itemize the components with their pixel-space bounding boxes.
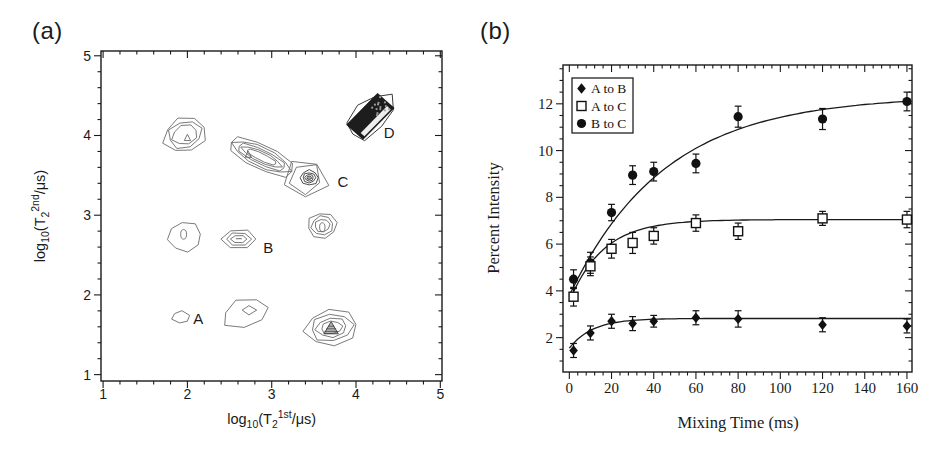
x-tick-label: 20 [604, 380, 619, 396]
speckle-dot [376, 112, 378, 114]
contour-ring [172, 311, 190, 323]
data-point [649, 167, 658, 176]
contour-blob-peak-B [221, 230, 256, 248]
contour-ring [172, 125, 197, 144]
y-tick-label: 4 [83, 127, 91, 143]
y-tick-label: 2 [546, 330, 554, 346]
contour-ring [167, 223, 200, 253]
y-tick-label: 12 [538, 96, 553, 112]
data-point [734, 112, 743, 121]
y-tick-label: 1 [83, 367, 91, 383]
speckle-dot [375, 108, 377, 110]
contour-blob-peak-upper-left [163, 118, 206, 150]
contour-blob-peak-left-mid [167, 223, 200, 253]
figure: (a) (b) 1234512345log10(T21st/μs)log10(T… [0, 0, 952, 458]
contour-inner-ring [184, 134, 190, 140]
data-point [903, 321, 912, 331]
legend-label: A to B [591, 81, 626, 96]
data-point [569, 292, 578, 301]
y-tick-label: 8 [546, 189, 554, 205]
y-tick-label: 5 [83, 48, 91, 64]
contour-blob-peak-C-core [284, 161, 329, 196]
contour-inner-ellipse [320, 223, 325, 232]
x-tick-label: 40 [646, 380, 661, 396]
contour-hatch-core [324, 322, 338, 334]
speckle-dot [379, 108, 381, 110]
speckle-dot [374, 104, 376, 106]
data-point [818, 214, 827, 223]
peak-label-B: B [263, 239, 273, 256]
contour-blob-peak-right-mid [309, 214, 337, 238]
x-tick-label: 4 [352, 386, 360, 402]
y-tick-label: 3 [83, 207, 91, 223]
contour-ring [232, 142, 292, 172]
data-point [734, 227, 743, 236]
speckle-dot [388, 108, 390, 110]
figure-canvas: 1234512345log10(T21st/μs)log10(T22nd/μs)… [0, 0, 952, 458]
x-tick-label: 5 [436, 386, 444, 402]
series-A-to-B [569, 311, 911, 358]
data-point [607, 316, 616, 326]
speckle-dot [379, 96, 381, 98]
x-tick-label: 2 [184, 386, 192, 402]
panel-b: 02040608010012014016024681012Mixing Time… [484, 65, 918, 432]
x-tick-label: 160 [896, 380, 919, 396]
contour-ring [316, 220, 331, 232]
data-point [691, 219, 700, 228]
y-tick-label: 6 [546, 236, 554, 252]
data-point [586, 262, 595, 271]
data-point [818, 320, 827, 330]
speckle-dot [379, 106, 381, 108]
contour-blob-peak-below-B [225, 300, 269, 328]
data-point [628, 171, 637, 180]
x-tick-label: 140 [853, 380, 876, 396]
contour-inner-ring [242, 306, 257, 315]
x-tick-label: 120 [811, 380, 834, 396]
data-point [649, 231, 658, 240]
contour-ring [231, 137, 293, 178]
speckle-dot [376, 114, 378, 116]
y-axis-label: log10(T22nd/μs) [30, 170, 51, 262]
data-point [734, 314, 743, 324]
x-tick-label: 1 [99, 386, 107, 402]
data-point [692, 313, 701, 323]
data-point [628, 238, 637, 247]
data-point [649, 316, 658, 326]
y-tick-label: 2 [83, 287, 91, 303]
x-tick-label: 80 [731, 380, 746, 396]
x-axis-label: Mixing Time (ms) [678, 413, 799, 432]
x-tick-label: 3 [268, 386, 276, 402]
data-point [607, 208, 616, 217]
x-tick-label: 100 [769, 380, 792, 396]
panel-a: 1234512345log10(T21st/μs)log10(T22nd/μs)… [30, 48, 444, 430]
series-A-to-C [569, 211, 911, 306]
y-axis-label: Percent Intensity [484, 162, 503, 274]
contour-blob-peak-lower-right [303, 309, 356, 345]
peak-label-A: A [193, 310, 203, 327]
speckle-dot [384, 101, 386, 103]
contour-inner-ring [307, 176, 312, 179]
data-point [691, 159, 700, 168]
legend-marker-open-square [577, 102, 586, 111]
contour-blob-peak-C-ridge [231, 137, 293, 178]
speckle-dot [384, 109, 386, 111]
data-point [902, 97, 911, 106]
speckle-dot [377, 103, 379, 105]
peak-label-C: C [337, 173, 348, 190]
legend-marker-filled-circle [577, 119, 586, 128]
x-tick-label: 60 [688, 380, 703, 396]
speckle-dot [371, 107, 373, 109]
data-point [902, 215, 911, 224]
x-axis-label: log10(T21st/μs) [227, 409, 316, 430]
speckle-dot [385, 105, 387, 107]
peak-label-D: D [384, 124, 395, 141]
y-tick-label: 10 [538, 143, 553, 159]
data-point [607, 244, 616, 253]
y-tick-label: 4 [546, 283, 554, 299]
data-point [818, 114, 827, 123]
contour-inner-ellipse [181, 230, 187, 240]
data-point [569, 275, 578, 284]
fit-curve-A-to-B [569, 319, 911, 349]
x-tick-label: 0 [566, 380, 574, 396]
legend-label: A to C [591, 99, 626, 114]
